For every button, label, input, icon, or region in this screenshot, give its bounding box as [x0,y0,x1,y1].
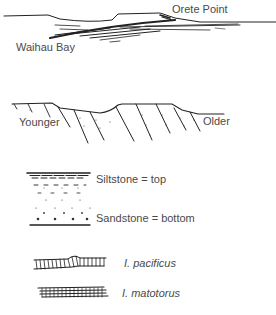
matotorus-shell-icon [38,287,108,297]
label-younger: Younger [19,117,60,128]
pacificus-shell-icon [34,256,106,269]
label-orete-point: Orete Point [172,4,228,15]
label-siltstone-top: Siltstone = top [96,174,166,185]
label-i-pacificus: I. pacificus [124,258,176,269]
label-older: Older [203,116,230,127]
label-i-matotorus: I. matotorus [122,288,180,299]
label-sandstone-bottom: Sandstone = bottom [96,213,195,224]
label-waihau-bay: Waihau Bay [16,42,75,53]
